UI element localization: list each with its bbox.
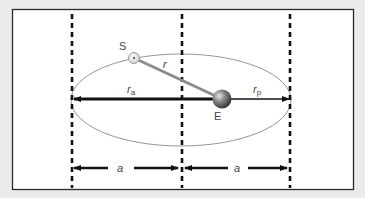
label-semi-major-right: a: [234, 162, 240, 174]
label-aphelion-sub: a: [131, 88, 136, 97]
label-sun: S: [119, 40, 126, 52]
label-earth: E: [214, 110, 221, 122]
label-perihelion-sub: p: [257, 88, 262, 97]
orbit-diagram: S E r ra rp a a: [0, 0, 365, 198]
body-s-center-dot: [133, 57, 135, 59]
label-semi-major-left: a: [117, 162, 123, 174]
body-e-icon: [213, 90, 232, 109]
